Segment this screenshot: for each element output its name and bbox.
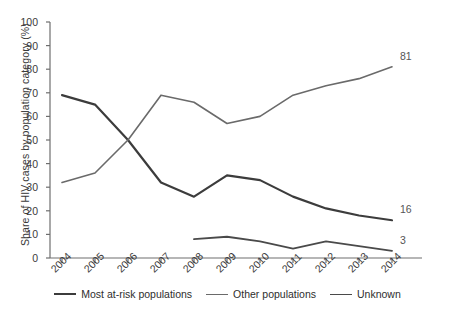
y-axis-tick-label: 10: [14, 229, 38, 240]
y-axis-tick-label: 50: [14, 135, 38, 146]
series-line: [62, 67, 392, 183]
series-value-label: 81: [400, 51, 412, 62]
legend-line-swatch-icon: [206, 294, 228, 295]
legend-label: Unknown: [357, 288, 401, 300]
y-axis-tick-label: 90: [14, 41, 38, 52]
y-axis-tick-label: 100: [14, 17, 38, 28]
series-value-label: 3: [400, 235, 406, 246]
legend-line-swatch-icon: [330, 294, 352, 295]
series-line: [62, 95, 392, 220]
line-chart: Share of HIV cases by population categor…: [0, 0, 455, 313]
series-value-label: 16: [400, 204, 412, 215]
legend-line-swatch-icon: [54, 293, 76, 295]
legend-item[interactable]: Most at-risk populations: [54, 288, 192, 300]
y-axis-tick-label: 0: [14, 253, 38, 264]
y-axis-tick-label: 30: [14, 182, 38, 193]
y-axis-tick-label: 80: [14, 64, 38, 75]
y-axis-tick-label: 20: [14, 206, 38, 217]
series-line: [194, 237, 392, 251]
chart-legend: Most at-risk populationsOther population…: [0, 288, 455, 300]
y-axis-tick-label: 60: [14, 111, 38, 122]
legend-label: Most at-risk populations: [81, 288, 192, 300]
legend-item[interactable]: Unknown: [330, 288, 401, 300]
y-axis-tick-label: 40: [14, 159, 38, 170]
legend-item[interactable]: Other populations: [206, 288, 316, 300]
legend-label: Other populations: [233, 288, 316, 300]
y-axis-tick-label: 70: [14, 88, 38, 99]
